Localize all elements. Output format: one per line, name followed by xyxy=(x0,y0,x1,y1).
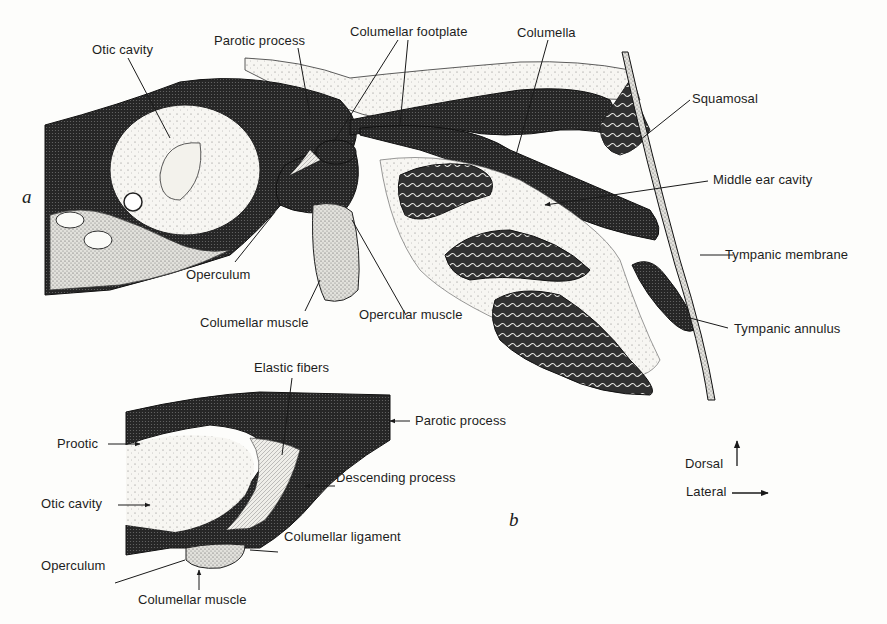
label-tympanic-membrane: Tympanic membrane xyxy=(725,247,848,262)
label-lateral: Lateral xyxy=(686,484,726,499)
label-opercular-muscle: Opercular muscle xyxy=(359,307,462,322)
label-columellar-muscle-a: Columellar muscle xyxy=(200,315,309,330)
label-columellar-footplate: Columellar footplate xyxy=(350,24,468,39)
panel-a-letter: a xyxy=(22,186,32,208)
label-middle-ear-cavity: Middle ear cavity xyxy=(713,172,812,187)
label-descending-process: Descending process xyxy=(336,470,456,485)
label-parotic-process-a: Parotic process xyxy=(214,33,305,48)
label-operculum-a: Operculum xyxy=(186,267,250,282)
label-parotic-process-b: Parotic process xyxy=(415,413,506,428)
label-columella: Columella xyxy=(517,25,576,40)
label-otic-cavity-b: Otic cavity xyxy=(41,496,102,511)
panel-b-letter: b xyxy=(509,509,519,531)
label-operculum-b: Operculum xyxy=(41,558,105,573)
label-dorsal: Dorsal xyxy=(685,456,723,471)
orientation-arrows xyxy=(732,441,768,493)
label-otic-cavity-a: Otic cavity xyxy=(92,42,153,57)
label-columellar-muscle-b: Columellar muscle xyxy=(138,592,247,607)
panel-a-drawing xyxy=(45,52,715,400)
label-prootic: Prootic xyxy=(57,436,98,451)
label-tympanic-annulus: Tympanic annulus xyxy=(734,321,840,336)
label-elastic-fibers: Elastic fibers xyxy=(254,360,329,375)
label-squamosal: Squamosal xyxy=(692,91,758,106)
label-columellar-ligament: Columellar ligament xyxy=(284,529,401,544)
